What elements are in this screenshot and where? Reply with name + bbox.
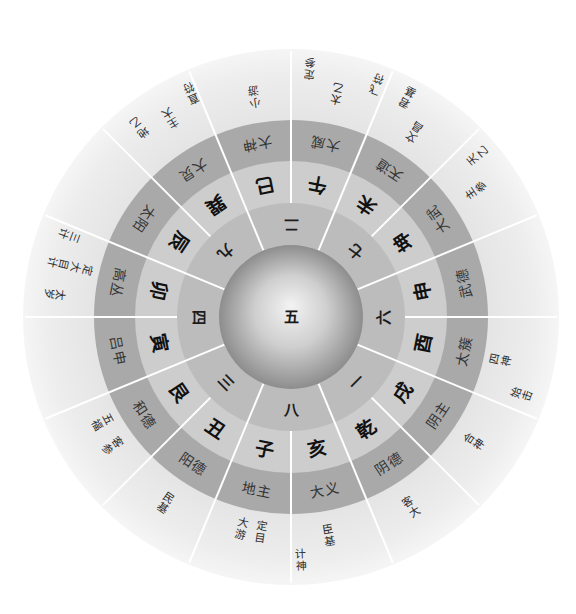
branch-label: 子 [253, 438, 275, 460]
taiyi-sixteen-palace-chart: 五 二 七 六 一 八 三 四 九 午 未 坤 申 酉 戌 乾 亥 子 丑 艮 … [0, 0, 576, 614]
branch-label: 午 [306, 173, 328, 195]
number-label: 四 [191, 310, 206, 325]
outer-label: 计神 [294, 548, 306, 572]
branch-label: 酉 [412, 332, 434, 354]
branch-label: 巳 [253, 173, 275, 195]
branch-label: 卯 [147, 279, 169, 301]
outer-label: 太岁 [43, 286, 68, 299]
center-palace-label: 五 [284, 310, 299, 325]
outer-label: 定目 [253, 519, 267, 544]
branch-label: 寅 [147, 332, 169, 354]
outer-label: 臣基 [320, 522, 335, 547]
outer-label: 定参 [305, 56, 318, 81]
branch-label: 申 [412, 279, 434, 301]
number-label: 六 [377, 310, 392, 325]
number-label: 二 [284, 217, 299, 232]
number-label: 八 [284, 403, 299, 418]
outer-label: 小游 [248, 84, 263, 109]
branch-label: 亥 [306, 438, 328, 460]
